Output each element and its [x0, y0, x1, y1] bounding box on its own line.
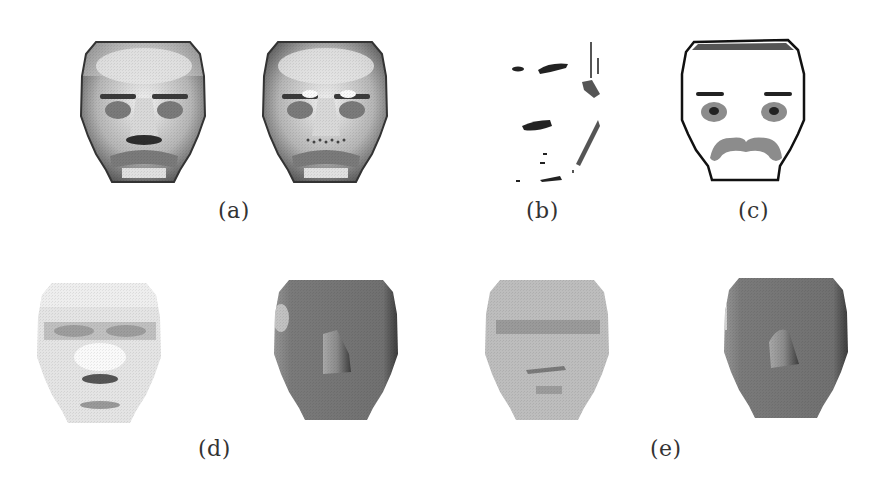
panel-label-e: (e) [650, 436, 682, 461]
face-image-e-right [720, 272, 854, 422]
face-outline-drawing-c [676, 34, 810, 184]
face-edge-image-b [510, 40, 605, 185]
panel-label-b: (b) [526, 198, 559, 223]
face-image-a-left [78, 36, 210, 186]
panel-label-a: (a) [218, 198, 250, 223]
panel-label-d: (d) [198, 436, 231, 461]
face-image-a-right [260, 36, 392, 186]
face-image-d-left [33, 277, 167, 427]
face-image-d-right [270, 274, 404, 424]
face-image-e-left [482, 274, 614, 424]
panel-label-c: (c) [738, 198, 769, 223]
